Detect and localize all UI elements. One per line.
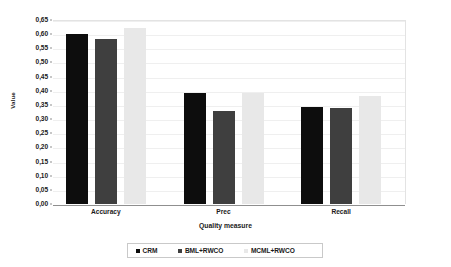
y-tick-mark [50,90,52,91]
y-tick-label: 0,00 [18,201,48,208]
bar-bml-rwco-prec [213,111,235,204]
bar-mcml-rwco-recall [359,96,381,204]
x-tick-label-prec: Prec [216,208,230,215]
y-tick-label: 0,30 [18,116,48,123]
y-tick-label: 0,65 [18,17,48,24]
y-tick-mark [50,204,52,205]
y-tick-mark [50,20,52,21]
y-tick-label: 0,55 [18,45,48,52]
y-tick-label: 0,35 [18,102,48,109]
chart-legend: CRMBML+RWCOMCML+RWCO [127,243,323,258]
bar-chart: Value 0,000,050,100,150,200,250,300,350,… [0,0,451,267]
y-tick-mark [50,119,52,120]
x-tick-label-recall: Recall [331,208,350,215]
bar-crm-prec [184,93,206,204]
bars-layer [53,20,406,204]
y-tick-mark [50,76,52,77]
legend-item-crm: CRM [136,247,157,254]
bar-crm-accuracy [66,34,88,204]
y-tick-label: 0,05 [18,187,48,194]
legend-swatch-icon [178,249,182,253]
x-tick-label-accuracy: Accuracy [91,208,121,215]
bar-crm-recall [301,107,323,204]
y-tick-label: 0,50 [18,59,48,66]
bar-mcml-rwco-prec [242,93,264,204]
legend-item-bml-rwco: BML+RWCO [178,247,223,254]
y-tick-label: 0,15 [18,158,48,165]
y-tick-mark [50,161,52,162]
y-tick-mark [50,48,52,49]
legend-swatch-icon [244,249,248,253]
bar-bml-rwco-recall [330,108,352,204]
legend-label: BML+RWCO [185,247,224,254]
legend-label: CRM [143,247,158,254]
y-tick-label: 0,45 [18,73,48,80]
y-tick-mark [50,62,52,63]
bar-mcml-rwco-accuracy [124,28,146,204]
y-axis-title-text: Value [9,92,16,109]
y-axis-title: Value [5,0,19,200]
x-axis-title: Quality measure [0,222,451,229]
y-tick-label: 0,10 [18,172,48,179]
legend-swatch-icon [136,249,140,253]
bar-bml-rwco-accuracy [95,39,117,204]
y-tick-mark [50,147,52,148]
legend-item-mcml-rwco: MCML+RWCO [244,247,294,254]
legend-label: MCML+RWCO [251,247,295,254]
y-tick-label: 0,25 [18,130,48,137]
y-tick-label: 0,20 [18,144,48,151]
y-tick-mark [50,175,52,176]
y-tick-label: 0,40 [18,87,48,94]
y-tick-mark [50,133,52,134]
y-tick-mark [50,104,52,105]
y-tick-mark [50,189,52,190]
y-tick-label: 0,60 [18,31,48,38]
gridline [53,205,405,206]
y-tick-mark [50,34,52,35]
